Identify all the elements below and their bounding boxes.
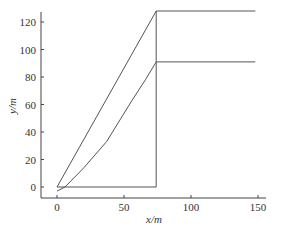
x-tick-label: 100 <box>183 201 200 213</box>
y-tick-label: 20 <box>25 154 37 166</box>
x-tick-label: 0 <box>54 201 60 213</box>
y-tick-label: 60 <box>25 99 37 111</box>
y-tick-label: 40 <box>25 126 37 138</box>
y-axis-label: y/m <box>6 98 18 115</box>
y-tick-label: 100 <box>20 44 37 56</box>
y-ticks: 020406080100120 <box>20 16 45 193</box>
x-tick-label: 50 <box>119 201 131 213</box>
series-lines <box>57 11 255 191</box>
line-chart: 020406080100120 050100150 x/m y/m <box>0 0 281 230</box>
y-tick-label: 0 <box>31 181 37 193</box>
y-tick-label: 80 <box>25 71 37 83</box>
y-tick-label: 120 <box>20 16 37 28</box>
x-tick-label: 150 <box>250 201 267 213</box>
x-axis-label: x/m <box>145 213 162 225</box>
axes <box>41 12 266 198</box>
